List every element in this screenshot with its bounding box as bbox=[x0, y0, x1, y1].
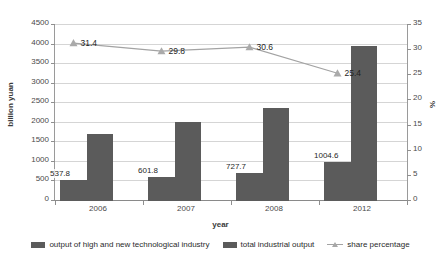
y-axis-left-tick-label: 500 bbox=[36, 175, 49, 183]
y-axis-right-tick-label: 35 bbox=[413, 19, 422, 27]
y-axis-right-tick-label: 0 bbox=[413, 195, 417, 203]
y-axis-right-tick-label: 30 bbox=[413, 44, 422, 52]
legend-item[interactable]: share percentage bbox=[327, 240, 409, 249]
y-axis-right-tick-mark bbox=[407, 74, 411, 75]
y-axis-left-tick-label: 2500 bbox=[31, 97, 49, 105]
chart-legend: output of high and new technological ind… bbox=[0, 240, 441, 249]
line-series-layer: 31.429.830.625.4 bbox=[55, 25, 407, 201]
legend-item-label: output of high and new technological ind… bbox=[49, 240, 209, 249]
y-axis-right-tick-label: 15 bbox=[413, 120, 422, 128]
legend-item-label: share percentage bbox=[347, 240, 409, 249]
y-axis-right-tick-label: 20 bbox=[413, 94, 422, 102]
line-value-label: 30.6 bbox=[256, 42, 273, 52]
y-axis-left-tick-label: 1500 bbox=[31, 136, 49, 144]
y-axis-right-tick-mark bbox=[407, 24, 411, 25]
legend-item[interactable]: total industrial output bbox=[223, 240, 315, 249]
x-axis-category-labels: 2006200720082012 bbox=[54, 204, 406, 218]
y-axis-right-tick-mark bbox=[407, 99, 411, 100]
plot-area: 537.8601.8727.71004.6 31.429.830.625.4 bbox=[54, 24, 408, 201]
y-axis-left-tick-label: 2000 bbox=[31, 117, 49, 125]
y-axis-left-ticks: 050010001500200025003000350040004500 bbox=[16, 0, 52, 208]
y-axis-right-tick-label: 5 bbox=[413, 170, 417, 178]
y-axis-left-tick-label: 4000 bbox=[31, 39, 49, 47]
y-axis-left-tick-label: 1000 bbox=[31, 156, 49, 164]
legend-item[interactable]: output of high and new technological ind… bbox=[31, 240, 209, 249]
x-axis-category-label: 2007 bbox=[142, 204, 230, 213]
y-axis-right-ticks: 05101520253035 bbox=[408, 0, 432, 208]
y-axis-right-tick-mark bbox=[407, 125, 411, 126]
line-value-label: 31.4 bbox=[80, 38, 97, 48]
line-value-label: 29.8 bbox=[168, 46, 185, 56]
x-axis-tick-mark bbox=[407, 201, 408, 205]
chart-container: billion yuan % year 05001000150020002500… bbox=[0, 0, 441, 262]
y-axis-left-title-text: billion yuan bbox=[6, 82, 15, 126]
x-axis-category-label: 2008 bbox=[230, 204, 318, 213]
share-percentage-line bbox=[73, 43, 337, 73]
y-axis-left-tick-label: 3000 bbox=[31, 78, 49, 86]
legend-line-marker-icon bbox=[327, 241, 343, 248]
y-axis-left-tick-label: 4500 bbox=[31, 19, 49, 27]
y-axis-right-tick-mark bbox=[407, 150, 411, 151]
legend-item-label: total industrial output bbox=[241, 240, 315, 249]
x-axis-title: year bbox=[0, 220, 441, 229]
x-axis-category-label: 2006 bbox=[54, 204, 142, 213]
legend-color-swatch-icon bbox=[223, 242, 237, 248]
y-axis-right-tick-mark bbox=[407, 175, 411, 176]
line-marker-triangle[interactable] bbox=[69, 39, 77, 46]
x-axis-category-label: 2012 bbox=[318, 204, 406, 213]
y-axis-right-tick-label: 25 bbox=[413, 69, 422, 77]
y-axis-left-tick-label: 3500 bbox=[31, 58, 49, 66]
legend-color-swatch-icon bbox=[31, 242, 45, 248]
y-axis-right-tick-label: 10 bbox=[413, 145, 422, 153]
line-value-label: 25.4 bbox=[344, 68, 361, 78]
y-axis-right-tick-mark bbox=[407, 49, 411, 50]
y-axis-left-tick-label: 0 bbox=[45, 195, 49, 203]
